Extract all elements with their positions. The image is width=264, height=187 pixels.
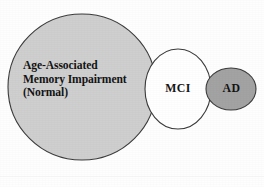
label-age-associated-memory-impairment: Age-Associated Memory Impairment (Normal…: [23, 59, 127, 100]
diagram-canvas: Age-Associated Memory Impairment (Normal…: [0, 0, 264, 187]
scan-edge-artifact: [0, 176, 264, 177]
label-mci: MCI: [145, 82, 211, 96]
label-ad: AD: [206, 82, 257, 96]
